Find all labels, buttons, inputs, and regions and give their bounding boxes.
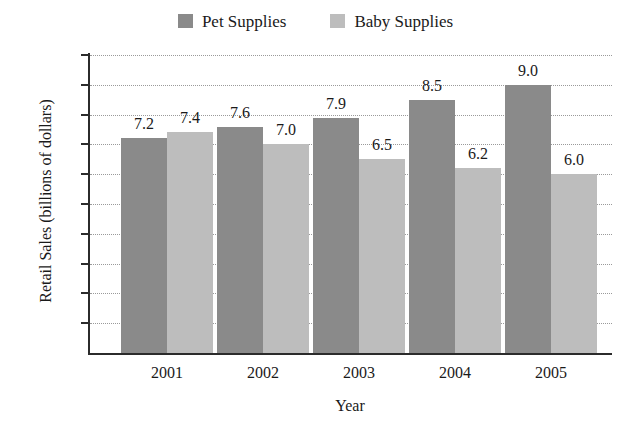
bar-value-label: 7.0 (258, 122, 314, 138)
bar-value-label: 7.4 (162, 110, 218, 126)
chart-legend: Pet Supplies Baby Supplies (0, 8, 631, 34)
bar-value-label: 9.0 (500, 63, 556, 79)
bar (121, 138, 167, 353)
y-tick-mark (81, 263, 89, 265)
bar (359, 159, 405, 353)
bar (409, 100, 455, 353)
bar-value-label: 8.5 (404, 78, 460, 94)
y-tick-mark (81, 292, 89, 294)
bar (551, 174, 597, 353)
bar (313, 118, 359, 353)
bar-value-label: 7.6 (212, 105, 268, 121)
bar-value-label: 6.2 (450, 146, 506, 162)
y-tick-mark (81, 143, 89, 145)
y-tick-mark (81, 233, 89, 235)
x-tick-label: 2005 (495, 365, 607, 381)
bar-chart-figure: Pet Supplies Baby Supplies Retail Sales … (0, 0, 631, 424)
y-tick-mark (81, 54, 89, 56)
bar-value-label: 6.0 (546, 152, 602, 168)
bar (217, 127, 263, 353)
gridline (90, 55, 612, 57)
bar (263, 144, 309, 353)
bar (167, 132, 213, 353)
y-tick-mark (81, 203, 89, 205)
y-tick-mark (81, 84, 89, 86)
x-axis-line (88, 353, 612, 355)
legend-item-pet-supplies: Pet Supplies (178, 13, 287, 30)
x-axis-title: Year (88, 397, 612, 415)
legend-swatch-pet-supplies (178, 14, 193, 28)
bar-value-label: 7.9 (308, 96, 364, 112)
plot-area: 10987654321 7.27.47.67.07.96.58.56.29.06… (88, 53, 612, 355)
bar (505, 85, 551, 353)
y-tick-mark (81, 114, 89, 116)
legend-swatch-baby-supplies (330, 14, 345, 28)
bar (455, 168, 501, 353)
y-tick-mark (81, 322, 89, 324)
legend-label-pet-supplies: Pet Supplies (202, 13, 287, 30)
legend-item-baby-supplies: Baby Supplies (330, 13, 453, 30)
y-axis-title: Retail Sales (billions of dollars) (37, 51, 55, 351)
bar-value-label: 6.5 (354, 137, 410, 153)
y-tick-mark (81, 173, 89, 175)
legend-label-baby-supplies: Baby Supplies (354, 13, 453, 30)
